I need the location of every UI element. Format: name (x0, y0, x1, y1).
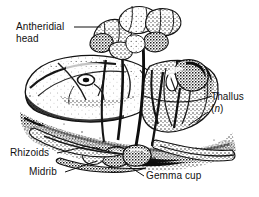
label-rhizoids: Rhizoids (10, 147, 49, 159)
label-thallus-line1: Thallus (211, 91, 244, 102)
marchantia-figure: Antheridial head Thallus (n) Rhizoids Mi… (0, 0, 259, 197)
label-thallus-ploidy: (n) (211, 103, 244, 115)
label-thallus-paren-close: ) (220, 103, 223, 114)
label-antheridial-head-line2: head (16, 33, 39, 44)
label-antheridial-head-line1: Antheridial (16, 21, 64, 32)
label-thallus: Thallus (n) (211, 91, 244, 114)
label-gemma-cup: Gemma cup (146, 170, 201, 182)
label-midrib: Midrib (29, 166, 57, 178)
label-antheridial-head: Antheridial head (16, 21, 64, 44)
antheridial-heads (90, 6, 181, 60)
